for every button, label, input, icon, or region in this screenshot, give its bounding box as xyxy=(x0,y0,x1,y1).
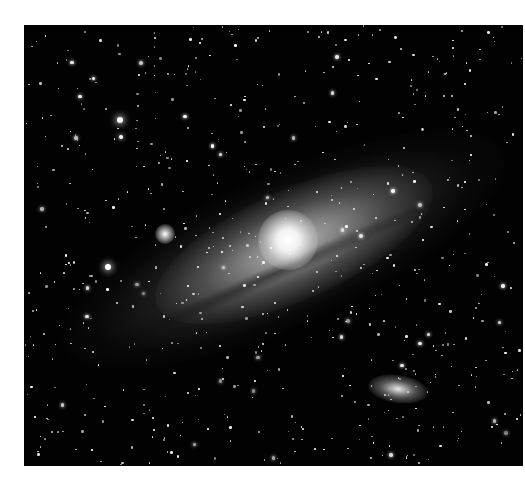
star xyxy=(167,424,170,427)
star xyxy=(285,344,287,346)
star xyxy=(255,39,258,42)
star xyxy=(413,454,415,456)
star xyxy=(143,389,145,391)
star xyxy=(327,31,330,34)
star xyxy=(219,345,221,347)
star xyxy=(224,414,226,416)
star xyxy=(422,239,424,241)
star xyxy=(331,438,333,440)
star xyxy=(95,280,98,283)
star xyxy=(67,50,69,52)
star xyxy=(170,451,173,454)
star xyxy=(189,38,192,41)
star xyxy=(328,121,331,124)
star xyxy=(206,252,208,254)
star xyxy=(498,321,502,325)
star xyxy=(81,103,83,105)
star xyxy=(406,298,408,300)
star xyxy=(368,63,370,65)
star xyxy=(418,203,422,207)
star xyxy=(323,449,325,451)
star xyxy=(307,31,309,33)
star xyxy=(136,120,138,122)
star xyxy=(150,143,153,146)
star xyxy=(65,264,67,266)
star xyxy=(421,213,423,215)
star xyxy=(452,128,454,130)
star xyxy=(244,166,246,168)
star xyxy=(70,343,72,345)
star xyxy=(354,401,356,403)
star xyxy=(475,367,477,369)
star xyxy=(479,59,481,61)
star xyxy=(402,117,404,119)
star xyxy=(465,337,468,340)
star xyxy=(236,59,238,61)
star xyxy=(85,217,87,219)
star xyxy=(388,410,390,412)
star xyxy=(256,356,260,360)
star xyxy=(452,412,454,414)
star xyxy=(187,127,190,130)
star xyxy=(262,343,264,345)
star xyxy=(485,263,488,266)
star xyxy=(163,208,165,210)
star xyxy=(350,311,353,314)
star xyxy=(230,104,232,106)
star xyxy=(439,445,442,448)
star xyxy=(457,184,460,187)
star xyxy=(375,295,377,297)
star xyxy=(201,38,204,41)
star xyxy=(411,221,413,223)
star xyxy=(411,79,413,81)
star xyxy=(394,36,397,39)
star xyxy=(260,241,262,243)
star xyxy=(148,188,150,190)
star xyxy=(424,299,427,302)
star xyxy=(321,31,323,33)
star xyxy=(61,403,65,407)
star xyxy=(257,37,260,40)
star xyxy=(154,32,156,34)
star xyxy=(265,332,267,334)
star xyxy=(494,111,497,114)
star xyxy=(280,462,282,464)
star xyxy=(412,354,414,356)
star xyxy=(25,344,27,346)
star xyxy=(264,459,266,461)
star xyxy=(312,290,314,292)
star xyxy=(36,309,38,311)
star xyxy=(447,343,450,346)
star xyxy=(344,125,347,128)
star xyxy=(388,61,391,64)
star xyxy=(95,82,97,84)
star xyxy=(476,376,478,378)
star xyxy=(262,261,265,264)
star xyxy=(27,394,29,396)
star xyxy=(67,148,69,150)
star xyxy=(114,138,116,140)
star xyxy=(211,194,213,196)
star xyxy=(386,257,389,260)
star xyxy=(337,318,339,320)
star xyxy=(399,378,402,381)
star xyxy=(69,183,71,185)
star xyxy=(166,157,169,160)
star xyxy=(239,109,242,112)
star xyxy=(433,426,435,428)
star xyxy=(516,418,518,420)
star xyxy=(171,98,174,101)
star xyxy=(208,165,210,167)
star xyxy=(418,425,420,427)
star xyxy=(36,41,38,43)
star xyxy=(332,337,334,339)
star xyxy=(79,289,81,291)
star xyxy=(495,178,497,180)
star xyxy=(505,331,507,333)
star xyxy=(331,199,333,201)
star xyxy=(196,332,198,334)
star xyxy=(238,29,240,31)
star xyxy=(90,275,93,278)
star xyxy=(118,198,120,200)
star xyxy=(359,425,361,427)
